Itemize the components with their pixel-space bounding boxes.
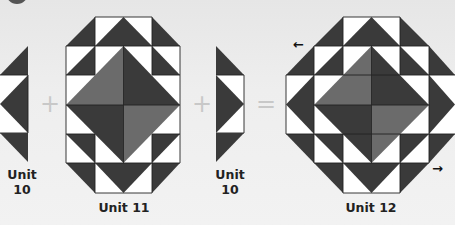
unit-10-right-label-line1: Unit [208,167,252,182]
unit-10-left-block [0,46,28,162]
unit-11-block [66,17,180,193]
unit-10-right-block [216,46,244,162]
equals-operator: = [256,92,276,116]
unit-10-left-label-line1: Unit [0,167,44,182]
arrow-right-icon: → [432,162,443,175]
unit-12-label: Unit 12 [335,200,407,215]
unit-10-right-label-line2: 10 [208,182,252,197]
unit-10-left-label: Unit 10 [0,167,44,197]
arrow-left-icon: ← [293,38,304,51]
unit-12-block [286,17,455,193]
unit-10-right-label: Unit 10 [208,167,252,197]
unit-10-left-label-line2: 10 [0,182,44,197]
plus-operator-2: + [192,92,212,116]
unit-11-label: Unit 11 [88,200,160,215]
plus-operator-1: + [40,92,60,116]
